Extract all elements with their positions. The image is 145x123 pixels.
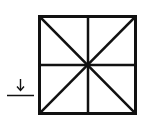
square-figure: [40, 17, 136, 114]
diagram-canvas: [0, 0, 145, 123]
down-arrow-icon: [17, 79, 24, 91]
